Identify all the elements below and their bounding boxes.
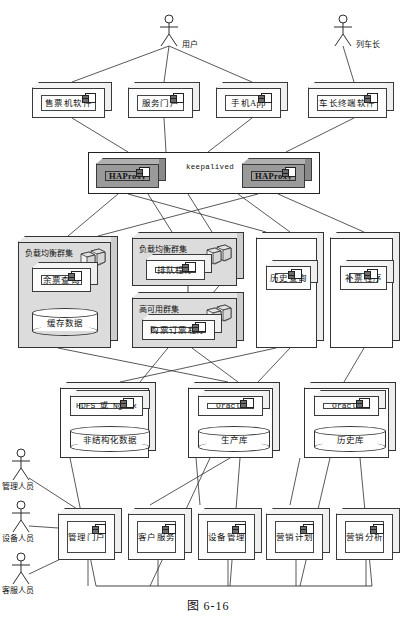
node-label: 营销分析 (346, 533, 384, 542)
node-side-face (105, 82, 112, 111)
database-cylinder[interactable]: 非结构化数据 (70, 426, 150, 452)
component-node[interactable]: 服务门户 (128, 82, 200, 118)
node-side-face (205, 254, 212, 273)
node-side-face (143, 390, 150, 409)
component-node[interactable]: 客户服务 (128, 508, 192, 560)
database-cylinder[interactable]: 历史库 (314, 426, 386, 452)
actor-label: 客服人员 (2, 584, 34, 595)
cluster-title: 高可用群集 (139, 303, 179, 314)
component-node[interactable]: HDFS 或 Nginx (70, 390, 150, 416)
component-node[interactable]: 车长终端软件 (308, 82, 394, 118)
component-node[interactable]: 营销分析 (336, 508, 400, 560)
connector (278, 194, 364, 232)
node-side-face (215, 314, 222, 333)
cluster-side-face (237, 232, 244, 279)
actor-label: 列车长 (356, 38, 380, 49)
node-side-face (323, 508, 330, 553)
component-icon (71, 271, 82, 281)
actor-figure-icon (8, 552, 34, 586)
component-node[interactable]: 售票机软件 (32, 82, 112, 118)
component-node[interactable]: 设备管理 (198, 508, 262, 560)
component-icon (243, 398, 254, 408)
node-side-face (255, 508, 262, 553)
node-side-face (263, 390, 270, 409)
cluster-side-face (317, 232, 324, 341)
cluster-package[interactable] (256, 232, 324, 348)
actor-label: 管理人员 (2, 480, 34, 491)
node-side-face (305, 158, 312, 181)
component-icon (123, 398, 134, 408)
keepalived-link-label: keepalived (186, 163, 234, 171)
actor-0[interactable]: 用户 (156, 14, 216, 60)
actor-label: 设备人员 (2, 532, 34, 543)
connector (164, 118, 166, 152)
actor-figure-icon (8, 448, 34, 482)
component-node[interactable]: 排队程序 (146, 254, 212, 280)
node-side-face (159, 158, 166, 181)
node-label: 设备管理 (208, 533, 246, 542)
component-icon (367, 93, 378, 103)
component-icon (95, 524, 106, 534)
component-icon (373, 524, 384, 534)
actor-figure-icon (8, 500, 34, 534)
component-node[interactable]: HAProxy (96, 158, 166, 188)
node-side-face (185, 508, 192, 553)
node-side-face (193, 82, 200, 111)
connector (68, 194, 118, 236)
actor-2[interactable]: 管理人员 (8, 448, 68, 494)
connector (208, 118, 252, 152)
component-icon (195, 322, 206, 332)
component-node[interactable]: Oracle (314, 390, 386, 416)
cluster-side-face (111, 236, 118, 341)
component-node[interactable]: 余票查询 (32, 262, 98, 292)
component-node[interactable]: 购票订票程序 (142, 314, 222, 340)
component-node[interactable]: Oracle (198, 390, 270, 416)
cylinder-label: 非结构化数据 (70, 433, 150, 445)
node-side-face (387, 260, 394, 283)
component-node[interactable]: 历史查询 (266, 260, 318, 290)
component-node[interactable]: 手机App (216, 82, 288, 118)
component-icon (261, 93, 272, 103)
node-label: 管理门户 (68, 533, 106, 542)
actor-figure-icon (330, 14, 356, 48)
host-side-face (389, 382, 396, 451)
cylinder-label: 缓存数据 (32, 316, 98, 328)
component-node[interactable]: 营销计划 (266, 508, 330, 560)
cluster-side-face (393, 232, 400, 341)
component-icon (185, 262, 196, 272)
node-side-face (115, 508, 122, 553)
connector (148, 194, 172, 232)
node-side-face (281, 82, 288, 111)
connector (150, 458, 230, 505)
cluster-side-face (237, 292, 244, 341)
node-side-face (91, 262, 98, 285)
actor-1[interactable]: 列车长 (330, 14, 390, 60)
connector (344, 348, 364, 382)
node-label: 营销计划 (276, 533, 314, 542)
component-node[interactable]: 管理门户 (58, 508, 122, 560)
actor-label: 用户 (182, 38, 198, 49)
component-icon (139, 167, 150, 177)
connector (188, 194, 212, 232)
node-side-face (387, 82, 394, 111)
database-cylinder[interactable]: 生产库 (198, 426, 270, 452)
actor-figure-icon (156, 14, 182, 48)
component-node[interactable]: 补票程序 (340, 260, 394, 290)
connector (290, 458, 300, 505)
component-icon (359, 398, 370, 408)
database-cylinder[interactable]: 缓存数据 (32, 308, 98, 336)
component-icon (303, 524, 314, 534)
component-icon (367, 269, 378, 279)
node-side-face (311, 260, 318, 283)
cluster-front-face (330, 238, 393, 348)
cluster-title: 负载均衡群集 (25, 247, 73, 258)
host-side-face (273, 382, 280, 451)
component-node[interactable]: HAProxy (242, 158, 312, 188)
component-icon (85, 93, 96, 103)
component-icon (291, 269, 302, 279)
node-side-face (393, 508, 400, 553)
component-icon (235, 524, 246, 534)
node-side-face (379, 390, 386, 409)
cluster-package[interactable] (330, 232, 400, 348)
cylinder-label: 生产库 (198, 433, 270, 445)
